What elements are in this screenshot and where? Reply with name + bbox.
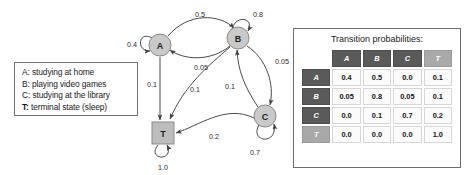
table-header-row: A B C T bbox=[302, 50, 452, 67]
legend-key-a: A: bbox=[22, 67, 30, 77]
legend-text-a: studying at home bbox=[30, 67, 94, 77]
transition-probability-table: A B C T A 0.4 0.5 0.0 0.1 B 0.05 0.8 0.0… bbox=[300, 48, 454, 145]
legend-key-t: T: bbox=[22, 102, 29, 112]
edge-label-b-t: 0.1 bbox=[190, 85, 200, 94]
table-row: C 0.0 0.1 0.7 0.2 bbox=[302, 107, 452, 124]
edge-label-a-t: 0.1 bbox=[147, 80, 157, 89]
cell-c-b: 0.1 bbox=[363, 107, 391, 124]
edge-label-c-b: 0.1 bbox=[225, 82, 235, 91]
table-corner-cell bbox=[302, 50, 330, 67]
table-title: Transition probabilities: bbox=[300, 33, 454, 46]
edge-b-a bbox=[170, 46, 230, 58]
cell-a-c: 0.0 bbox=[393, 69, 421, 86]
cell-c-c: 0.7 bbox=[393, 107, 421, 124]
col-header-b: B bbox=[363, 50, 391, 67]
cell-b-a: 0.05 bbox=[332, 88, 360, 105]
node-c-label: C bbox=[262, 112, 269, 122]
table-row: B 0.05 0.8 0.05 0.1 bbox=[302, 88, 452, 105]
edge-label-a-b: 0.5 bbox=[195, 10, 205, 19]
row-header-c: C bbox=[302, 107, 330, 124]
legend-key-c: C: bbox=[22, 90, 30, 100]
edge-c-t bbox=[176, 113, 254, 133]
edge-label-c-t: 0.2 bbox=[209, 132, 219, 141]
cell-a-b: 0.5 bbox=[363, 69, 391, 86]
cell-c-a: 0.0 bbox=[332, 107, 360, 124]
cell-a-a: 0.4 bbox=[332, 69, 360, 86]
node-b-label: B bbox=[235, 34, 242, 44]
cell-t-b: 0.0 bbox=[363, 126, 391, 143]
row-header-t: T bbox=[302, 126, 330, 143]
edge-b-c bbox=[247, 46, 271, 105]
state-transition-diagram: A B C T 0.4 0.5 0.1 0.8 0.05 0.05 0.1 0.… bbox=[112, 0, 302, 175]
edge-label-b-a: 0.05 bbox=[194, 63, 208, 72]
col-header-t: T bbox=[424, 50, 452, 67]
row-header-a: A bbox=[302, 69, 330, 86]
edge-label-a-a: 0.4 bbox=[127, 40, 137, 49]
legend-text-b: playing video games bbox=[30, 79, 107, 89]
cell-c-t: 0.2 bbox=[424, 107, 452, 124]
edge-label-b-b: 0.8 bbox=[253, 10, 263, 19]
edge-c-b bbox=[237, 50, 258, 107]
legend-text-c: studying at the library bbox=[30, 90, 110, 100]
transition-probabilities-panel: Transition probabilities: A B C T A 0.4 … bbox=[293, 28, 461, 168]
edge-t-t bbox=[155, 145, 168, 157]
col-header-a: A bbox=[332, 50, 360, 67]
cell-t-t: 1.0 bbox=[424, 126, 452, 143]
legend-key-b: B: bbox=[22, 79, 30, 89]
node-a-label: A bbox=[157, 41, 164, 51]
legend-text-t: terminal state (sleep) bbox=[29, 102, 107, 112]
col-header-c: C bbox=[393, 50, 421, 67]
cell-t-a: 0.0 bbox=[332, 126, 360, 143]
cell-b-c: 0.05 bbox=[393, 88, 421, 105]
cell-b-t: 0.1 bbox=[424, 88, 452, 105]
edge-label-b-c: 0.05 bbox=[275, 57, 289, 66]
edge-label-t-t: 1.0 bbox=[158, 163, 168, 172]
cell-b-b: 0.8 bbox=[363, 88, 391, 105]
edge-label-c-c: 0.7 bbox=[250, 148, 260, 157]
cell-t-c: 0.0 bbox=[393, 126, 421, 143]
cell-a-t: 0.1 bbox=[424, 69, 452, 86]
table-row: T 0.0 0.0 0.0 1.0 bbox=[302, 126, 452, 143]
row-header-b: B bbox=[302, 88, 330, 105]
node-t-label: T bbox=[160, 129, 166, 139]
edge-a-b bbox=[168, 18, 234, 36]
table-row: A 0.4 0.5 0.0 0.1 bbox=[302, 69, 452, 86]
